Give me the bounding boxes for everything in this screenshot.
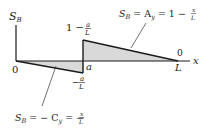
svg-text:a: a bbox=[86, 21, 90, 29]
bottom-value-label: − a L bbox=[72, 75, 85, 91]
svg-text:a: a bbox=[80, 75, 84, 83]
y-axis-label: SB bbox=[9, 10, 22, 24]
svg-text:L: L bbox=[190, 14, 195, 21]
origin-label: 0 bbox=[12, 64, 18, 75]
end-value-label: 0 bbox=[177, 48, 183, 58]
svg-text:L: L bbox=[78, 118, 83, 125]
end-position-label: L bbox=[174, 62, 182, 73]
right-equation: SB = Ay = 1 − x L bbox=[119, 6, 196, 21]
left-equation-leader bbox=[42, 66, 56, 106]
x-axis-label: x bbox=[193, 55, 199, 66]
svg-text:x: x bbox=[192, 6, 196, 13]
svg-text:1 −: 1 − bbox=[66, 22, 84, 33]
svg-text:SB = − Cy = −: SB = − Cy = − bbox=[15, 112, 84, 125]
right-equation-leader bbox=[131, 23, 146, 48]
svg-text:L: L bbox=[78, 83, 84, 91]
left-equation: SB = − Cy = − x L bbox=[15, 110, 84, 125]
influence-line-diagram: SB x 0 a 0 L 1 − a L − a L SB = Ay = 1 −… bbox=[0, 0, 215, 129]
top-value-label: 1 − a L bbox=[66, 21, 91, 37]
jump-position-label: a bbox=[86, 61, 92, 72]
svg-text:L: L bbox=[84, 29, 90, 37]
svg-text:SB = Ay = 1 −: SB = Ay = 1 − bbox=[119, 8, 186, 21]
